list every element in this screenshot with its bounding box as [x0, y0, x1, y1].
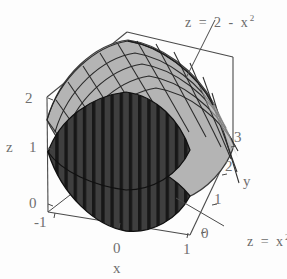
z-tick-1: 1 — [29, 140, 37, 155]
x-tick-0: 0 — [113, 241, 121, 256]
z-tick-0: 0 — [29, 196, 37, 211]
plot-canvas: z = 2 - x2 z = x2 2 1 0 z -1 0 1 x 3 2 1… — [0, 0, 287, 279]
y-tick-2: 2 — [225, 159, 233, 174]
y-tick-0: 0 — [201, 226, 209, 241]
annotation-upper-exponent: 2 — [250, 13, 255, 23]
x-tick-1: 1 — [183, 242, 191, 257]
y-axis-label: y — [243, 174, 251, 189]
y-tick-1: 1 — [214, 192, 222, 207]
annotation-upper-text: z = 2 - x — [185, 15, 250, 30]
x-axis-label: x — [113, 261, 121, 276]
annotation-lower-exponent: 2 — [285, 232, 287, 242]
z-axis-label: z — [6, 140, 13, 155]
z-tick-2: 2 — [25, 91, 33, 106]
x-tick-minus-1: -1 — [34, 215, 47, 230]
y-tick-3: 3 — [234, 130, 242, 145]
annotation-lower-text: z = x — [247, 234, 285, 249]
annotation-upper-surface: z = 2 - x2 — [163, 0, 254, 44]
annotation-lower-surface: z = x2 — [225, 219, 287, 263]
